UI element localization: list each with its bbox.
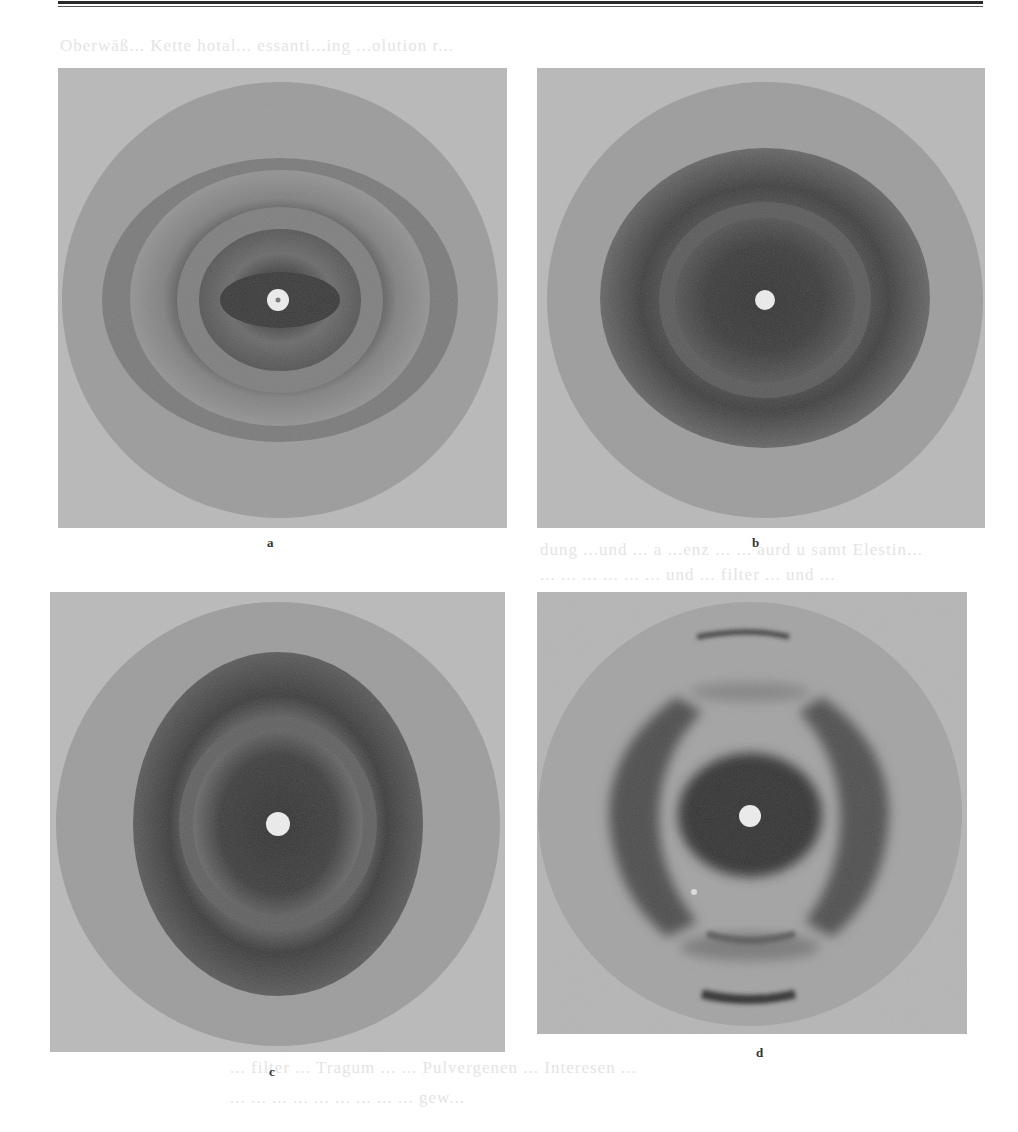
diffraction-panel-d [537,592,967,1034]
panel-label-d: d [756,1045,763,1061]
diffraction-pattern-b [537,68,985,528]
show-through-text: Oberwäß... Kette hotal... essanti...ing … [60,36,454,56]
panel-label-a: a [267,535,274,551]
diffraction-panel-b [537,68,985,528]
diffraction-pattern-d [537,592,967,1034]
show-through-text: ... filter ... Tragum ... ... Pulvergene… [230,1058,637,1078]
show-through-text: dung ...und ... a ...enz ... ... aurd u … [540,540,923,560]
header-rule-thin [58,6,983,7]
header-rule-thick [58,1,983,4]
panel-label-b: b [752,535,759,551]
panel-label-c: c [269,1064,275,1080]
show-through-text: ... ... ... ... ... ... und ... filter .… [540,565,836,585]
diffraction-pattern-a [58,68,507,528]
diffraction-panel-a [58,68,507,528]
diffraction-panel-c [50,592,505,1052]
diffraction-pattern-c [50,592,505,1052]
show-through-text: ... ... ... ... ... ... ... ... ... gew.… [230,1088,465,1108]
